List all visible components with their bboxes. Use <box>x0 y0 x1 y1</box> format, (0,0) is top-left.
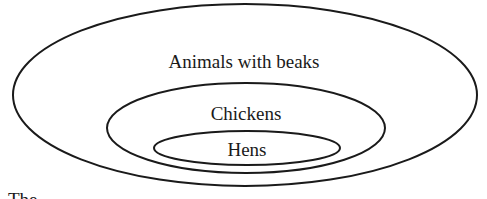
inner-set-label: Hens <box>227 140 266 159</box>
ellipse-layer <box>0 0 487 199</box>
outer-set-label: Animals with beaks <box>169 52 320 71</box>
nested-sets-diagram: Animals with beaks Chickens Hens The ... <box>0 0 487 199</box>
middle-set-label: Chickens <box>211 104 282 123</box>
caption-fragment: The ... <box>8 190 57 199</box>
